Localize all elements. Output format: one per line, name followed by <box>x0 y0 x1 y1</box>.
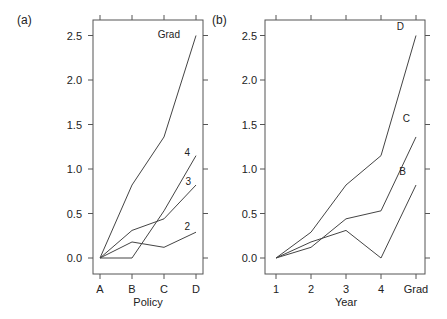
x-tick-label: A <box>96 283 104 295</box>
y-tick-label: 1.0 <box>67 163 82 175</box>
x-axis-title: Policy <box>133 296 163 308</box>
x-tick-label: 3 <box>343 283 349 295</box>
x-tick-label: D <box>192 283 200 295</box>
series-label: B <box>399 166 406 177</box>
x-axis-title: Year <box>335 296 358 308</box>
series-label: Grad <box>158 29 180 40</box>
y-tick-label: 2.5 <box>242 30 257 42</box>
series-label: C <box>403 113 410 124</box>
y-tick-label: 0.0 <box>67 252 82 264</box>
x-tick-label: C <box>160 283 168 295</box>
y-tick-label: 1.5 <box>67 119 82 131</box>
panel-label: (b) <box>212 13 227 27</box>
series-line-c <box>276 137 416 258</box>
series-label: D <box>397 21 404 32</box>
y-tick-label: 0.5 <box>67 208 82 220</box>
series-label: 3 <box>185 176 191 187</box>
y-tick-label: 2.0 <box>67 74 82 86</box>
x-tick-label: Grad <box>404 283 428 295</box>
series-line-4 <box>100 156 196 258</box>
y-tick-label: 1.5 <box>242 119 257 131</box>
y-tick-label: 0.0 <box>242 252 257 264</box>
series-label: 2 <box>184 221 190 232</box>
plot-frame <box>265 20 425 274</box>
y-tick-label: 2.0 <box>242 74 257 86</box>
y-tick-label: 0.5 <box>242 208 257 220</box>
chart-canvas: (a)0.00.51.01.52.02.5ABCDPolicyGrad432(b… <box>0 0 447 319</box>
panel-label: (a) <box>17 13 32 27</box>
x-tick-label: 4 <box>378 283 384 295</box>
x-tick-label: 2 <box>308 283 314 295</box>
y-tick-label: 1.0 <box>242 163 257 175</box>
series-line-d <box>276 36 416 259</box>
y-tick-label: 2.5 <box>67 30 82 42</box>
x-tick-label: 1 <box>273 283 279 295</box>
series-line-3 <box>100 185 196 258</box>
series-label: 4 <box>184 147 190 158</box>
x-tick-label: B <box>128 283 135 295</box>
series-line-b <box>276 185 416 258</box>
